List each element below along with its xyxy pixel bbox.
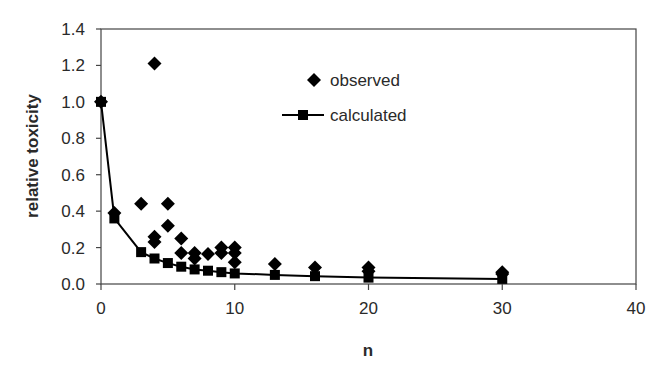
y-tick-label: 0.0 [61,275,85,294]
data-point [134,197,148,211]
series-calculated [96,97,507,284]
legend: observed calculated [282,71,407,125]
y-tick-label: 0.2 [61,239,85,258]
data-point [268,257,282,271]
x-tick-label: 40 [627,299,646,318]
y-tick-label: 0.6 [61,166,85,185]
data-point [109,213,119,223]
diamond-marker-icon [307,73,321,87]
data-point [148,57,162,71]
series-layer [94,57,509,284]
data-point [96,97,106,107]
data-point [497,274,507,284]
legend-item-observed: observed [307,71,400,90]
data-point [161,197,175,211]
data-point [174,246,188,260]
y-axis: 0.00.20.40.60.81.01.21.4 [61,20,101,294]
y-tick-label: 0.4 [61,202,85,221]
x-tick-label: 20 [359,299,378,318]
y-tick-label: 1.2 [61,56,85,75]
data-point [150,254,160,264]
data-point [174,231,188,245]
plot-border [101,29,636,284]
data-point [136,247,146,257]
square-marker-icon [298,110,308,120]
x-tick-label: 0 [96,299,105,318]
data-point [310,271,320,281]
data-point [364,273,374,283]
y-tick-label: 1.0 [61,93,85,112]
legend-label-calculated: calculated [330,106,407,125]
y-axis-title: relative toxicity [23,94,42,218]
chart-canvas: 0.00.20.40.60.81.01.21.4 010203040 relat… [0,0,664,371]
data-point [161,219,175,233]
data-point [176,262,186,272]
data-point [270,270,280,280]
y-tick-label: 1.4 [61,20,85,39]
x-axis-title: n [363,341,373,360]
data-point [163,258,173,268]
y-tick-label: 0.8 [61,129,85,148]
plot-area [101,29,636,284]
series-line [101,102,502,279]
data-point [216,267,226,277]
x-tick-label: 30 [493,299,512,318]
legend-item-calculated: calculated [282,106,407,125]
data-point [190,264,200,274]
chart: 0.00.20.40.60.81.01.21.4 010203040 relat… [0,0,664,371]
series-observed [94,57,509,281]
data-point [228,255,242,269]
data-point [201,247,215,261]
x-tick-label: 10 [225,299,244,318]
data-point [230,268,240,278]
data-point [203,266,213,276]
legend-label-observed: observed [330,71,400,90]
x-axis: 010203040 [96,284,645,318]
